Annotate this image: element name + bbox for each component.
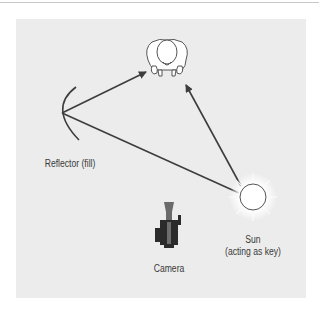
camera-label: Camera	[148, 263, 191, 275]
reflector-icon	[63, 87, 79, 140]
reflector-label: Reflector (fill)	[36, 158, 105, 170]
sun-to-reflector-line	[62, 113, 239, 193]
sun-label: Sun (acting as key)	[223, 234, 283, 258]
sun-icon	[229, 173, 277, 221]
subject-person-icon	[147, 39, 188, 76]
light-path-lines	[62, 72, 241, 193]
camera-icon	[155, 202, 181, 248]
sun-label-line1: Sun	[223, 234, 283, 246]
sun-label-line2: (acting as key)	[223, 246, 283, 258]
reflector-to-subject-arrow	[62, 72, 146, 113]
sun-to-subject-arrow	[186, 85, 241, 186]
